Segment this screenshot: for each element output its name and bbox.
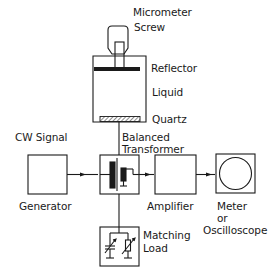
arrow-icon — [80, 173, 86, 177]
meter-dial-icon — [220, 158, 252, 190]
reflector-plate — [94, 67, 140, 71]
generator-label: Generator — [19, 200, 71, 213]
amplifier-box — [155, 155, 196, 194]
cw-signal-label: CW Signal — [15, 131, 67, 144]
diagram-canvas: Micrometer Screw Reflector Liquid Quartz… — [0, 0, 279, 279]
variable-capacitor-resistor-icon — [105, 227, 135, 258]
arrow-icon — [145, 173, 151, 177]
quartz-label: Quartz — [152, 113, 187, 126]
arrow-icon — [206, 173, 212, 177]
generator-box — [28, 155, 67, 194]
micrometer-screw-icon — [108, 26, 128, 70]
meter-oscilloscope-box — [216, 154, 255, 193]
load-label: Load — [143, 242, 168, 255]
transformer-symbol-icon — [100, 158, 139, 191]
liquid-cell — [93, 56, 146, 122]
liquid-label: Liquid — [152, 86, 183, 99]
amplifier-label: Amplifier — [147, 200, 193, 213]
matching-label: Matching — [143, 229, 190, 242]
transformer-label: Transformer — [122, 143, 184, 156]
reflector-label: Reflector — [151, 62, 197, 75]
micrometer-label: Micrometer — [133, 6, 192, 19]
quartz-crystal — [100, 117, 140, 122]
screw-label: Screw — [134, 21, 165, 34]
oscilloscope-label: Oscilloscope — [203, 224, 267, 237]
